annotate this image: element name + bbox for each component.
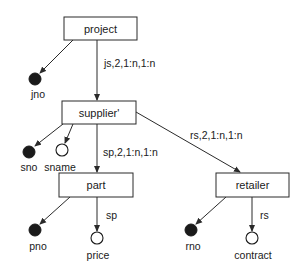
attribute-label-pno: pno xyxy=(29,240,47,252)
edge-part-pno xyxy=(40,197,70,224)
relationship-label-sp: sp,2,1:n,1:n xyxy=(103,146,158,158)
edge-supplier-sname xyxy=(65,124,73,143)
edge-supplier-retailer xyxy=(136,112,240,172)
edge-project-jno xyxy=(40,40,73,73)
node-label-project: project xyxy=(84,23,117,35)
attribute-circle-icon xyxy=(91,232,103,244)
node-label-retailer: retailer xyxy=(236,179,270,191)
attribute-label-price: price xyxy=(87,249,110,261)
attribute-edge-label-sp: sp xyxy=(106,209,117,221)
node-retailer: retailer xyxy=(216,173,289,197)
key-attribute-circle-icon xyxy=(185,224,197,236)
node-label-part: part xyxy=(87,179,106,191)
attribute-label-contract: contract xyxy=(234,249,271,261)
node-part: part xyxy=(59,173,133,197)
relationship-label-js: js,2,1:n,1:n xyxy=(103,57,156,69)
key-attribute-circle-icon xyxy=(29,224,41,236)
node-label-supplier: supplier' xyxy=(79,107,120,119)
key-attribute-circle-icon xyxy=(23,146,35,158)
attribute-label-sname: sname xyxy=(44,161,76,173)
edge-supplier-sno xyxy=(35,124,63,146)
attribute-edge-label-rs: rs xyxy=(260,209,269,221)
attribute-label-sno: sno xyxy=(21,161,38,173)
edge-retailer-rno xyxy=(196,197,226,224)
node-project: project xyxy=(64,17,137,40)
attribute-label-rno: rno xyxy=(185,240,200,252)
key-attribute-circle-icon xyxy=(29,73,41,85)
attribute-circle-icon xyxy=(56,144,68,156)
attribute-circle-icon xyxy=(246,232,258,244)
attribute-label-jno: jno xyxy=(30,88,45,100)
node-supplier: supplier' xyxy=(62,101,136,124)
schema-diagram: project supplier' part retailer js,2,1:n… xyxy=(0,0,305,277)
relationship-label-rs: rs,2,1:n,1:n xyxy=(190,129,243,141)
